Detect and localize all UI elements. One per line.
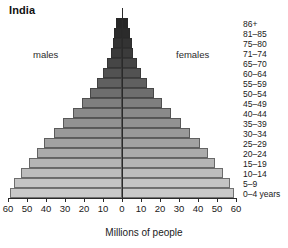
age-group-label: 50–54 <box>243 89 267 99</box>
x-axis-tick-label: 60 <box>226 203 246 214</box>
x-axis-tick <box>141 198 142 202</box>
bar-males <box>44 138 122 148</box>
bar-males <box>29 158 122 168</box>
bar-males <box>73 108 122 118</box>
age-group-label: 20–24 <box>243 149 267 159</box>
age-group-label: 15–19 <box>243 159 267 169</box>
x-axis-tick <box>46 198 47 202</box>
bar-females <box>122 128 190 138</box>
x-axis-tick-label: 30 <box>55 203 75 214</box>
bar-males <box>113 38 123 48</box>
population-pyramid-chart: India males females 60504030201001020304… <box>0 0 288 248</box>
bar-males <box>107 58 122 68</box>
bar-males <box>63 118 122 128</box>
x-axis-tick-label: 50 <box>207 203 227 214</box>
bar-males <box>103 68 122 78</box>
age-group-label: 35–39 <box>243 119 267 129</box>
x-axis-tick <box>198 198 199 202</box>
age-group-label: 30–34 <box>243 129 267 139</box>
bar-males <box>111 48 122 58</box>
x-axis-title: Millions of people <box>0 227 288 238</box>
x-axis-tick <box>236 198 237 202</box>
x-axis-tick <box>8 198 9 202</box>
x-axis-tick <box>122 198 123 202</box>
x-axis-tick <box>217 198 218 202</box>
x-axis-tick <box>84 198 85 202</box>
bar-females <box>122 48 133 58</box>
bar-females <box>122 38 132 48</box>
bar-females <box>122 58 137 68</box>
bar-females <box>122 98 162 108</box>
x-axis-tick <box>65 198 66 202</box>
bar-females <box>122 178 230 188</box>
age-group-label: 81–85 <box>243 29 267 39</box>
center-axis-line <box>122 8 123 198</box>
bar-males <box>90 88 122 98</box>
bar-males <box>114 28 122 38</box>
bar-males <box>97 78 122 88</box>
plot-area: 6050403020100102030405060 0–4 years5–910… <box>0 0 288 248</box>
x-axis-tick-label: 30 <box>169 203 189 214</box>
x-axis-tick <box>27 198 28 202</box>
x-axis-tick-label: 20 <box>150 203 170 214</box>
age-group-label: 71–74 <box>243 49 267 59</box>
age-group-label: 75–80 <box>243 39 267 49</box>
bar-females <box>122 68 141 78</box>
x-axis-tick <box>179 198 180 202</box>
bar-females <box>122 108 171 118</box>
age-group-label: 0–4 years <box>243 189 280 199</box>
age-group-label: 5–9 <box>243 179 257 189</box>
age-group-label: 40–44 <box>243 109 267 119</box>
x-axis-tick-label: 40 <box>188 203 208 214</box>
x-axis-tick-label: 50 <box>17 203 37 214</box>
bar-females <box>122 148 208 158</box>
x-axis-tick-label: 10 <box>93 203 113 214</box>
bar-females <box>122 78 147 88</box>
x-axis-tick-label: 10 <box>131 203 151 214</box>
bar-males <box>10 188 122 198</box>
bar-females <box>122 158 215 168</box>
bar-males <box>21 168 122 178</box>
x-axis-tick-label: 40 <box>36 203 56 214</box>
bar-males <box>37 148 123 158</box>
age-group-label: 55–59 <box>243 79 267 89</box>
x-axis-tick <box>103 198 104 202</box>
bar-females <box>122 168 223 178</box>
x-axis-tick-label: 20 <box>74 203 94 214</box>
x-axis-tick <box>160 198 161 202</box>
bar-females <box>122 188 234 198</box>
age-group-label: 60–64 <box>243 69 267 79</box>
age-group-label: 65–70 <box>243 59 267 69</box>
age-group-label: 86+ <box>243 19 257 29</box>
bar-females <box>122 138 200 148</box>
age-group-label: 10–14 <box>243 169 267 179</box>
bar-males <box>14 178 122 188</box>
bar-males <box>54 128 122 138</box>
bar-females <box>122 88 154 98</box>
bar-females <box>122 118 181 128</box>
age-group-label: 25–29 <box>243 139 267 149</box>
x-axis-tick-label: 0 <box>112 203 132 214</box>
bar-males <box>82 98 122 108</box>
x-axis-tick-label: 60 <box>0 203 18 214</box>
age-group-label: 45–49 <box>243 99 267 109</box>
bar-females <box>122 28 130 38</box>
